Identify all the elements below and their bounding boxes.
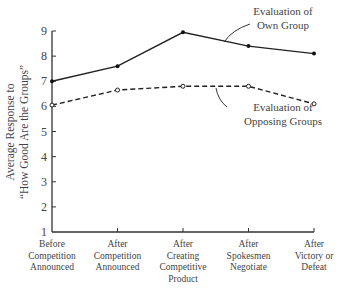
y-axis-label-line1: Average Response to bbox=[3, 57, 17, 207]
data-point bbox=[312, 52, 316, 56]
data-point bbox=[116, 88, 120, 92]
data-point bbox=[247, 44, 251, 48]
y-axis-label-line2: “How Good Are the Groups” bbox=[17, 57, 31, 207]
data-point bbox=[181, 84, 185, 88]
y-tick-label: 1 bbox=[41, 225, 47, 239]
x-tick-label: AfterSpokesmenNegotiate bbox=[213, 239, 285, 274]
data-point bbox=[116, 64, 120, 68]
annotation-opposing-line1: Evaluation of bbox=[233, 101, 333, 115]
annotation-own-line2: Own Group bbox=[233, 19, 333, 33]
y-tick-label: 3 bbox=[41, 175, 47, 189]
y-tick-label: 5 bbox=[41, 125, 47, 139]
axes: 123456789 bbox=[41, 24, 314, 239]
x-tick-label: AfterCreatingCompetitiveProduct bbox=[147, 239, 219, 285]
leader-opposing-groups bbox=[216, 88, 227, 107]
data-point bbox=[50, 79, 54, 83]
data-point bbox=[50, 103, 54, 107]
y-tick-label: 8 bbox=[41, 49, 47, 63]
series-own-group-line bbox=[52, 32, 314, 81]
y-axis-label: Average Response to “How Good Are the Gr… bbox=[3, 57, 31, 207]
x-tick-label: BeforeCompetitionAnnounced bbox=[16, 239, 88, 274]
x-tick-label: AfterCompetitionAnnounced bbox=[82, 239, 154, 274]
data-point bbox=[181, 30, 185, 34]
data-point bbox=[247, 84, 251, 88]
x-tick-label: AfterVictory orDefeat bbox=[278, 239, 344, 274]
annotation-own-line1: Evaluation of bbox=[233, 5, 333, 19]
annotation-leaders bbox=[216, 24, 250, 107]
y-tick-label: 9 bbox=[41, 24, 47, 38]
y-tick-label: 7 bbox=[41, 74, 47, 88]
annotation-opposing-line2: Opposing Groups bbox=[233, 115, 333, 129]
y-tick-label: 6 bbox=[41, 99, 47, 113]
y-tick-label: 4 bbox=[41, 150, 47, 164]
y-tick-label: 2 bbox=[41, 200, 47, 214]
annotation-own-group: Evaluation of Own Group bbox=[233, 5, 333, 32]
annotation-opposing-group: Evaluation of Opposing Groups bbox=[233, 101, 333, 128]
series-layer bbox=[50, 30, 316, 107]
